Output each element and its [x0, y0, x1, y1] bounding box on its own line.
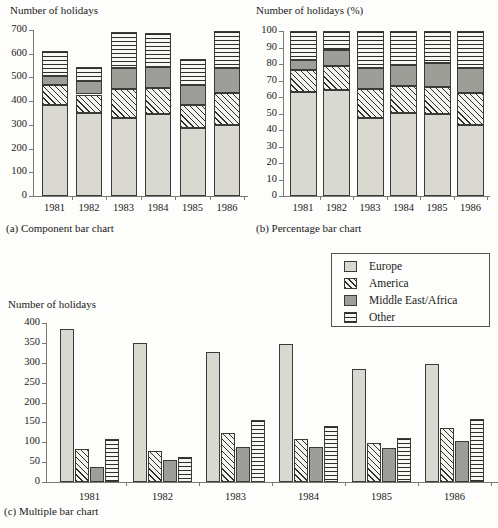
- stacked-bar: [424, 31, 451, 196]
- y-tick-mark: [29, 54, 33, 55]
- x-tick-label: 1981: [60, 492, 119, 503]
- y-tick-mark: [279, 114, 283, 115]
- bar-europe: [352, 369, 366, 482]
- y-tick-mark: [29, 172, 33, 173]
- x-tick-mark: [418, 482, 419, 486]
- y-tick-label: 0: [14, 476, 40, 487]
- bar-segment-other: [390, 31, 417, 65]
- bar-segment-middle-east-africa: [111, 68, 137, 89]
- bar-segment-america: [390, 86, 417, 112]
- y-tick-label: 150: [14, 416, 40, 427]
- y-tick-mark: [29, 30, 33, 31]
- bar-segment-europe: [424, 114, 451, 196]
- bar-segment-middle-east-africa: [323, 50, 350, 67]
- bar-segment-america: [457, 93, 484, 126]
- stacked-bar: [290, 31, 317, 196]
- legend-item: America: [344, 277, 409, 289]
- bar-other: [105, 439, 119, 482]
- y-tick-label: 0: [257, 190, 277, 201]
- panel-multiple-bar-chart: Number of holidays 050100150200250300350…: [0, 296, 492, 528]
- x-tick-mark: [126, 482, 127, 486]
- y-tick-label: 250: [14, 377, 40, 388]
- bar-europe: [206, 352, 220, 482]
- panel-b-caption: (b) Percentage bar chart: [256, 222, 361, 234]
- y-tick-mark: [29, 101, 33, 102]
- x-tick-label: 1986: [451, 203, 490, 214]
- bar-america: [440, 428, 454, 482]
- bar-segment-other: [111, 32, 137, 69]
- y-tick-mark: [29, 196, 33, 197]
- x-tick-mark: [320, 196, 321, 200]
- bar-other: [397, 438, 411, 482]
- stacked-bar: [111, 30, 137, 196]
- bar-america: [221, 433, 235, 482]
- y-tick-label: 60: [257, 91, 277, 102]
- x-tick-mark: [175, 196, 176, 200]
- stacked-bar: [180, 30, 206, 196]
- bar-segment-other: [76, 67, 102, 82]
- y-tick-mark: [279, 81, 283, 82]
- stacked-bar: [145, 30, 171, 196]
- y-tick-label: 500: [3, 71, 27, 82]
- bar-other: [470, 419, 484, 482]
- bar-segment-america: [424, 87, 451, 115]
- stacked-bar: [357, 31, 384, 196]
- bar-segment-europe: [290, 92, 317, 196]
- bar-segment-other: [290, 31, 317, 60]
- x-tick-label: 1984: [279, 492, 338, 503]
- y-tick-mark: [279, 31, 283, 32]
- y-tick-mark: [42, 383, 46, 384]
- bar-segment-europe: [357, 118, 384, 196]
- panel-percentage-bar-chart: Number of holidays (%) 01020304050607080…: [248, 0, 492, 245]
- legend-item: Europe: [344, 260, 402, 272]
- bar-segment-middle-east-africa: [290, 60, 317, 70]
- panel-b-plot-area: 0102030405060708090100198119821983198419…: [248, 0, 492, 215]
- bar-segment-europe: [214, 125, 240, 196]
- y-tick-label: 90: [257, 42, 277, 53]
- y-tick-label: 700: [3, 24, 27, 35]
- y-tick-label: 50: [257, 108, 277, 119]
- y-tick-label: 40: [257, 124, 277, 135]
- y-tick-label: 10: [257, 174, 277, 185]
- x-tick-label: 1982: [133, 492, 192, 503]
- bar-segment-america: [111, 89, 137, 118]
- bar-segment-europe: [180, 128, 206, 196]
- bar-segment-europe: [145, 114, 171, 196]
- y-tick-mark: [42, 363, 46, 364]
- stacked-bar: [323, 31, 350, 196]
- y-tick-mark: [29, 77, 33, 78]
- x-tick-label: 1986: [425, 492, 484, 503]
- bar-segment-middle-east-africa: [457, 68, 484, 92]
- bar-europe: [60, 329, 74, 482]
- y-tick-mark: [29, 149, 33, 150]
- stacked-bar: [457, 31, 484, 196]
- bar-segment-america: [180, 105, 206, 128]
- light-grey-solid-swatch: [344, 261, 357, 272]
- bar-middle-east-africa: [163, 460, 177, 482]
- y-tick-mark: [42, 343, 46, 344]
- y-tick-mark: [279, 130, 283, 131]
- y-tick-label: 400: [14, 317, 40, 328]
- bar-america: [148, 451, 162, 482]
- bar-segment-middle-east-africa: [145, 67, 171, 88]
- y-tick-mark: [279, 163, 283, 164]
- y-tick-label: 100: [14, 436, 40, 447]
- bar-segment-america: [290, 70, 317, 92]
- y-tick-mark: [279, 196, 283, 197]
- bar-segment-other: [424, 31, 451, 63]
- bar-europe: [133, 343, 147, 482]
- x-tick-mark: [199, 482, 200, 486]
- y-tick-label: 100: [3, 166, 27, 177]
- x-tick-mark: [487, 196, 488, 200]
- stacked-bar: [76, 30, 102, 196]
- bar-segment-america: [214, 93, 240, 125]
- diagonal-hatch-swatch: [344, 278, 357, 289]
- y-tick-mark: [42, 403, 46, 404]
- bar-segment-europe: [323, 90, 350, 196]
- x-tick-mark: [491, 482, 492, 486]
- bar-segment-america: [76, 95, 102, 113]
- bar-segment-america: [357, 89, 384, 119]
- bar-other: [324, 426, 338, 482]
- x-tick-label: 1981: [36, 203, 74, 214]
- y-tick-mark: [279, 64, 283, 65]
